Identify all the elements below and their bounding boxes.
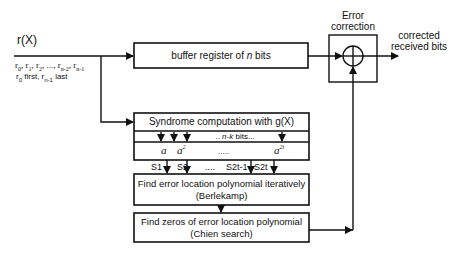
input-order-note: r0 first, rn-1 last [16,71,68,82]
syndrome-output-s2: S2 [177,162,188,173]
syndrome-output-s2t: S2t [254,162,268,173]
syndrome-output-ellipsis: .... [205,162,215,173]
syndrome-output-s1: S1 [151,162,162,173]
syndrome-output-s2t-1: S2t-1 [226,162,248,173]
input-signal-label: r(X) [17,34,37,47]
output-label: corrected received bits [386,30,452,52]
chien-search-box: Find zeros of error location polynomial … [134,213,309,242]
syndrome-bits-label: .. n-k bits... [190,131,280,142]
buffer-register-box: buffer register of n bits [134,43,308,68]
alpha-term-2t: a2t [274,145,284,156]
alpha-term-1: a [161,145,167,156]
buffer-register-label: buffer register of n bits [171,50,270,62]
alpha-ellipsis: ..... [218,146,229,157]
error-correction-title: Error correction [322,10,384,32]
alpha-term-2: a2 [177,145,186,156]
input-sequence-label: r0, r1, r2, ..., rn-2, rn-1 [15,60,84,71]
syndrome-title: Syndrome computation with g(X) [134,113,309,131]
berlekamp-box: Find error location polynomial iterative… [134,174,309,205]
